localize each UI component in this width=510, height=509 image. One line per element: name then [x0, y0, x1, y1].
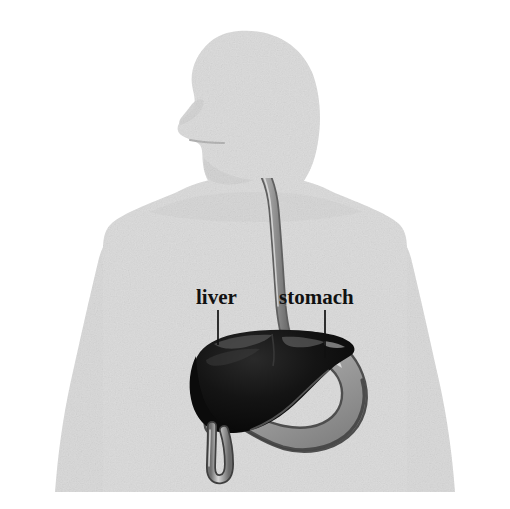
head-profile — [178, 31, 320, 200]
anatomy-figure: liver stomach — [0, 0, 510, 509]
liver-label-text: liver — [196, 285, 237, 309]
illustration-canvas: liver stomach — [0, 0, 510, 509]
stomach-label-text: stomach — [279, 285, 354, 309]
